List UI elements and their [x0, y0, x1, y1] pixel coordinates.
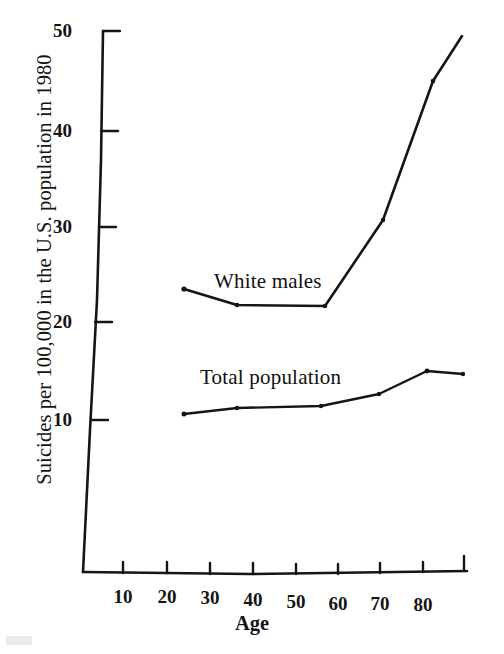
plot-area: [0, 0, 504, 654]
y-axis-spine: [83, 31, 103, 572]
series-line-total-population: [184, 371, 463, 414]
page-scan-artifact: [6, 636, 32, 645]
figure-chart-suicide-rates-by-age: Suicides per 100,000 in the U.S. populat…: [0, 0, 504, 654]
x-axis-spine: [83, 571, 467, 574]
series-markers-white-males: [181, 79, 435, 309]
y-axis-ticks: [91, 31, 120, 420]
series-line-white-males: [184, 36, 462, 306]
